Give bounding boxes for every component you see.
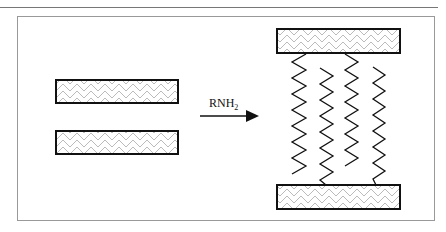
layer-after-bottom (277, 185, 400, 209)
chain-1 (292, 54, 306, 174)
chain-3 (345, 54, 358, 166)
chain-4 (373, 67, 385, 185)
intercalation-diagram (0, 0, 446, 232)
reagent-label: RNH2 (209, 96, 238, 112)
alkyl-chains (292, 54, 385, 185)
layer-before-top (56, 80, 178, 103)
chain-2 (320, 68, 333, 185)
layer-after-top (277, 29, 400, 53)
layer-before-bottom (56, 131, 178, 154)
